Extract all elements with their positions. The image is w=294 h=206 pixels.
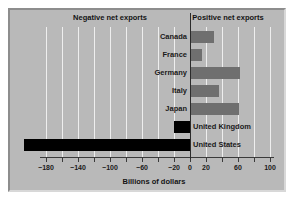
x-tick xyxy=(206,158,207,162)
negative-side-heading: Negative net exports xyxy=(73,13,147,22)
x-tick xyxy=(62,158,63,162)
bar-japan xyxy=(190,103,239,115)
bar-row: France xyxy=(30,46,278,64)
x-tick xyxy=(174,158,175,162)
bar-label-united-kingdom: United Kingdom xyxy=(193,118,251,136)
x-tick-label: −20 xyxy=(168,164,180,171)
x-tick xyxy=(126,158,127,162)
x-tick-label: 60 xyxy=(234,164,242,171)
bar-france xyxy=(190,49,202,61)
bar-row: Canada xyxy=(30,28,278,46)
x-tick xyxy=(254,158,255,162)
chart-figure-panel: Negative net exports Positive net export… xyxy=(8,8,286,192)
bar-row: United States xyxy=(30,136,278,154)
x-tick-label: −60 xyxy=(136,164,148,171)
bar-row: United Kingdom xyxy=(30,118,278,136)
bar-label-france: France xyxy=(162,46,187,64)
x-tick-label: −180 xyxy=(38,164,54,171)
plot-area: CanadaFranceGermanyItalyJapanUnited King… xyxy=(30,27,278,157)
x-axis-label: Billions of dollars xyxy=(30,177,278,186)
bar-label-canada: Canada xyxy=(160,28,187,46)
x-tick-label: 0 xyxy=(188,164,192,171)
bar-united-kingdom xyxy=(174,121,190,133)
bar-italy xyxy=(190,85,219,97)
x-tick xyxy=(238,158,239,162)
x-tick xyxy=(222,158,223,162)
bar-row: Germany xyxy=(30,64,278,82)
x-tick-label: 100 xyxy=(264,164,276,171)
bar-label-italy: Italy xyxy=(172,82,187,100)
zero-axis-line xyxy=(190,13,191,159)
bar-row: Italy xyxy=(30,82,278,100)
plot-frame: Negative net exports Positive net export… xyxy=(30,13,278,185)
x-tick xyxy=(110,158,111,162)
x-tick xyxy=(94,158,95,162)
bar-label-germany: Germany xyxy=(154,64,187,82)
x-axis: −180−140−100−60−2002060100 Billions of d… xyxy=(30,157,278,187)
bar-germany xyxy=(190,67,240,79)
x-tick xyxy=(158,158,159,162)
positive-side-heading: Positive net exports xyxy=(192,13,263,22)
x-tick-label: −100 xyxy=(102,164,118,171)
x-tick xyxy=(78,158,79,162)
bar-canada xyxy=(190,31,214,43)
bar-label-japan: Japan xyxy=(165,100,187,118)
bar-united-states xyxy=(24,139,190,151)
x-tick xyxy=(46,158,47,162)
bar-label-united-states: United States xyxy=(193,136,241,154)
bar-row: Japan xyxy=(30,100,278,118)
x-tick-label: 20 xyxy=(202,164,210,171)
x-tick xyxy=(142,158,143,162)
x-tick-label: −140 xyxy=(70,164,86,171)
x-tick xyxy=(270,158,271,162)
